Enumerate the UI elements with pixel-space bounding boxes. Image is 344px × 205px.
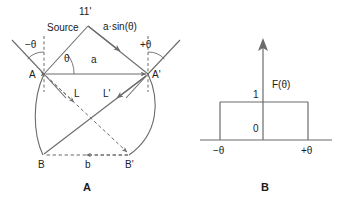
path-L	[46, 76, 127, 152]
label-point-a: A	[29, 70, 36, 80]
label-x-plus-theta: +θ	[301, 146, 312, 156]
label-segment-a: a	[91, 55, 97, 65]
label-apex-11-prime: 11'	[79, 7, 91, 17]
figure-canvas: 11' Source a·sin(θ) −θ +θ θ a A A' L L' …	[0, 0, 344, 205]
panel-a-geometry	[12, 26, 180, 155]
label-path-L-prime: L'	[103, 89, 110, 99]
label-segment-b: b	[85, 160, 91, 170]
label-point-b: B	[38, 160, 45, 170]
arc-left	[35, 74, 44, 155]
label-a-sin-theta: a·sin(θ)	[103, 22, 137, 32]
label-theta: θ	[64, 54, 70, 64]
apex-side-left	[44, 26, 88, 74]
panel-b-caption: B	[261, 182, 269, 193]
path-L-prime-arrow	[117, 76, 146, 98]
label-y-zero: 0	[253, 124, 259, 134]
angle-arc-plus-theta	[148, 52, 165, 59]
label-angle-plus-theta: +θ	[140, 40, 151, 50]
panel-b-plot	[200, 38, 332, 140]
label-angle-minus-theta: −θ	[25, 40, 36, 50]
angle-arc-minus-theta	[28, 52, 45, 59]
label-source: Source	[47, 23, 79, 33]
label-point-a-prime: A'	[152, 70, 161, 80]
panel-a-caption: A	[83, 182, 91, 193]
label-x-minus-theta: −θ	[213, 146, 224, 156]
label-y-one: 1	[253, 90, 259, 100]
label-path-L: L	[74, 89, 80, 99]
label-function-f-theta: F(θ)	[272, 80, 290, 90]
path-L-arrow	[46, 76, 74, 102]
label-point-b-prime: B'	[125, 160, 134, 170]
